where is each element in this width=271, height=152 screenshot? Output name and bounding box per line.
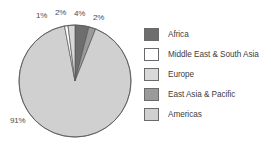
pie-value-label: 4% xyxy=(74,9,85,18)
pie-value-label: 91% xyxy=(10,116,25,125)
legend-item: East Asia & Pacific xyxy=(144,85,271,103)
legend-label: Europe xyxy=(168,70,194,79)
pie-value-label: 2% xyxy=(55,8,66,17)
legend: AfricaMiddle East & South AsiaEuropeEast… xyxy=(144,25,271,125)
pie-slices xyxy=(19,25,131,137)
pie-plot-area: 1%2%4%2%91% xyxy=(0,0,140,152)
legend-item: Americas xyxy=(144,105,271,123)
pie-svg xyxy=(0,0,140,152)
pie-value-label: 1% xyxy=(36,11,47,20)
pie-chart-figure: 1%2%4%2%91% AfricaMiddle East & South As… xyxy=(0,0,271,152)
legend-swatch xyxy=(144,108,159,121)
legend-item: Europe xyxy=(144,65,271,83)
legend-item: Middle East & South Asia xyxy=(144,45,271,63)
legend-label: Americas xyxy=(168,110,202,119)
legend-swatch xyxy=(144,28,159,41)
legend-label: East Asia & Pacific xyxy=(168,90,235,99)
pie-value-label: 2% xyxy=(93,13,104,22)
legend-swatch xyxy=(144,68,159,81)
legend-label: Middle East & South Asia xyxy=(168,50,259,59)
legend-swatch xyxy=(144,48,159,61)
legend-swatch xyxy=(144,88,159,101)
legend-item: Africa xyxy=(144,25,271,43)
legend-label: Africa xyxy=(168,30,189,39)
